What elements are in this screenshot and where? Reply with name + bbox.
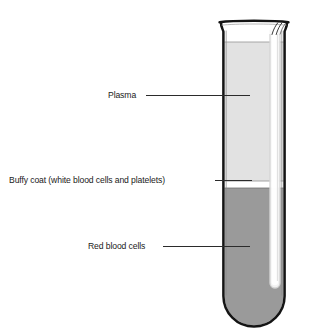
diagram-canvas: Plasma Buffy coat (white blood cells and… (0, 0, 310, 336)
tube-rim (220, 21, 289, 23)
test-tube-diagram (0, 0, 310, 336)
label-plasma: Plasma (108, 91, 136, 100)
label-red-blood-cells: Red blood cells (88, 242, 145, 251)
glass-highlight-stripe (270, 30, 281, 289)
label-buffy-coat: Buffy coat (white blood cells and platel… (9, 176, 165, 185)
